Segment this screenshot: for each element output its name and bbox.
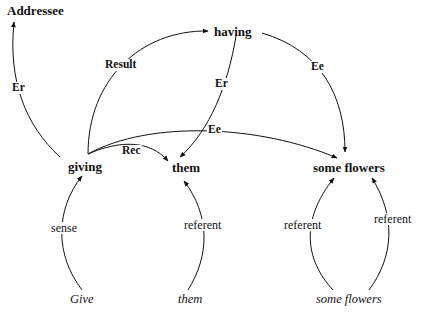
edge-label-ee-giving: Ee <box>207 124 222 136</box>
edge-label-referent-them: referent <box>183 219 222 231</box>
word-some-flowers: some flowers <box>316 293 382 306</box>
edge-label-referent-flowers-right: referent <box>373 213 412 225</box>
node-them: them <box>172 161 200 174</box>
network-diagram: Addressee having giving them some flower… <box>0 0 422 315</box>
edges-layer <box>0 0 422 315</box>
node-some-flowers: some flowers <box>313 161 385 174</box>
edge-label-er-addressee: Er <box>11 82 26 94</box>
edge-label-referent-flowers-left: referent <box>283 219 322 231</box>
edge-flowers-right <box>369 178 389 290</box>
node-addressee: Addressee <box>7 4 64 17</box>
node-having: having <box>214 25 252 38</box>
node-giving: giving <box>68 160 102 173</box>
edge-label-er-them: Er <box>214 78 229 90</box>
edge-label-sense: sense <box>50 222 78 234</box>
edge-having-them <box>180 36 236 157</box>
edge-label-result: Result <box>104 59 137 71</box>
edge-having-flowers <box>262 33 345 152</box>
edge-label-ee-having: Ee <box>310 61 325 73</box>
word-give: Give <box>70 293 94 306</box>
edge-giving-having <box>88 31 208 154</box>
edge-label-rec: Rec <box>121 145 142 157</box>
edge-them-them <box>184 181 204 290</box>
edge-flowers-left <box>310 178 334 290</box>
word-them: them <box>178 293 202 306</box>
